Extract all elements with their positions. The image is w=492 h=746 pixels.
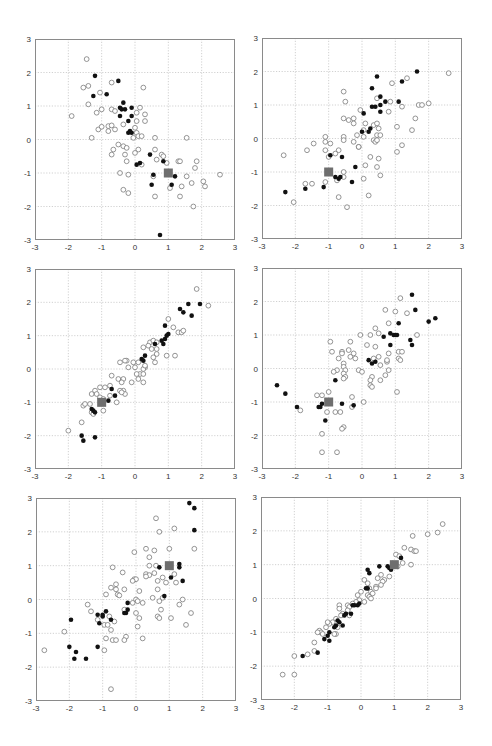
svg-text:-1: -1: [99, 704, 107, 713]
svg-text:1: 1: [253, 561, 258, 570]
svg-text:3: 3: [459, 703, 464, 712]
svg-text:0: 0: [359, 703, 364, 712]
svg-text:-2: -2: [24, 432, 32, 441]
scatter-panel-middle-right: -3-2-10123-3-2-10123: [262, 268, 462, 469]
svg-text:-1: -1: [325, 242, 333, 251]
svg-text:1: 1: [393, 242, 398, 251]
hollow-markers: [280, 522, 445, 677]
svg-text:0: 0: [27, 136, 32, 145]
svg-text:-1: -1: [251, 168, 259, 177]
svg-text:-2: -2: [291, 703, 299, 712]
svg-text:2: 2: [254, 298, 259, 307]
svg-text:0: 0: [360, 242, 365, 251]
hollow-markers: [298, 296, 419, 455]
hollow-markers: [69, 57, 222, 209]
svg-text:-1: -1: [325, 472, 333, 481]
svg-text:-1: -1: [24, 169, 32, 178]
svg-text:-2: -2: [292, 242, 300, 251]
svg-text:-2: -2: [25, 663, 33, 672]
svg-text:-3: -3: [257, 703, 265, 712]
svg-text:2: 2: [253, 527, 258, 536]
svg-text:1: 1: [166, 243, 171, 252]
svg-text:-3: -3: [251, 235, 259, 244]
svg-text:0: 0: [28, 596, 33, 605]
svg-text:3: 3: [254, 34, 259, 43]
hollow-markers: [42, 516, 197, 692]
svg-text:1: 1: [392, 703, 397, 712]
svg-text:3: 3: [233, 243, 238, 252]
svg-text:-3: -3: [31, 243, 39, 252]
svg-text:3: 3: [460, 242, 465, 251]
square-marker: [165, 561, 174, 570]
hollow-markers: [66, 287, 211, 433]
svg-text:-3: -3: [251, 465, 259, 474]
svg-text:2: 2: [254, 68, 259, 77]
svg-text:-2: -2: [65, 472, 73, 481]
square-marker: [324, 398, 333, 407]
svg-text:-2: -2: [251, 202, 259, 211]
svg-text:-3: -3: [32, 704, 40, 713]
svg-text:1: 1: [28, 562, 33, 571]
svg-text:3: 3: [253, 493, 258, 502]
square-marker: [164, 169, 173, 178]
svg-text:-2: -2: [65, 243, 73, 252]
svg-text:-3: -3: [24, 236, 32, 245]
svg-text:-1: -1: [251, 398, 259, 407]
svg-text:3: 3: [28, 494, 33, 503]
svg-text:3: 3: [254, 264, 259, 273]
svg-text:0: 0: [27, 365, 32, 374]
svg-text:1: 1: [27, 102, 32, 111]
svg-text:-2: -2: [251, 432, 259, 441]
svg-text:3: 3: [234, 704, 239, 713]
svg-text:1: 1: [167, 704, 172, 713]
svg-text:0: 0: [134, 704, 139, 713]
svg-text:-1: -1: [98, 472, 106, 481]
svg-text:2: 2: [200, 704, 205, 713]
scatter-panel-top-right: -3-2-10123-3-2-10123: [262, 38, 462, 239]
svg-text:2: 2: [426, 472, 431, 481]
svg-text:3: 3: [460, 472, 465, 481]
svg-text:2: 2: [27, 298, 32, 307]
svg-text:-1: -1: [324, 703, 332, 712]
svg-text:0: 0: [133, 472, 138, 481]
svg-text:3: 3: [233, 472, 238, 481]
square-marker: [324, 168, 333, 177]
square-marker: [97, 398, 106, 407]
svg-text:1: 1: [254, 331, 259, 340]
svg-text:-1: -1: [98, 243, 106, 252]
svg-text:-3: -3: [24, 465, 32, 474]
svg-text:0: 0: [360, 472, 365, 481]
svg-text:0: 0: [253, 595, 258, 604]
square-marker: [390, 560, 399, 569]
svg-text:-2: -2: [24, 203, 32, 212]
svg-text:0: 0: [133, 243, 138, 252]
scatter-panel-bottom-left: -3-2-10123-3-2-10123: [36, 498, 236, 701]
scatter-panel-top-left: -3-2-10123-3-2-10123: [35, 39, 235, 240]
svg-text:1: 1: [393, 472, 398, 481]
svg-text:-3: -3: [258, 472, 266, 481]
grid-lines: [262, 268, 462, 469]
svg-text:2: 2: [199, 243, 204, 252]
svg-text:2: 2: [27, 69, 32, 78]
svg-text:2: 2: [425, 703, 430, 712]
tick-labels: -3-2-10123-3-2-10123: [251, 34, 465, 251]
axes-frame: [263, 269, 462, 469]
svg-text:2: 2: [199, 472, 204, 481]
svg-text:-3: -3: [31, 472, 39, 481]
svg-text:-3: -3: [258, 242, 266, 251]
svg-text:-2: -2: [292, 472, 300, 481]
tick-labels: -3-2-10123-3-2-10123: [24, 265, 238, 481]
svg-text:3: 3: [27, 265, 32, 274]
scatter-panel-middle-left: -3-2-10123-3-2-10123: [35, 269, 235, 469]
svg-text:-1: -1: [250, 628, 258, 637]
svg-text:2: 2: [28, 528, 33, 537]
svg-text:-2: -2: [66, 704, 74, 713]
svg-text:3: 3: [27, 35, 32, 44]
tick-labels: -3-2-10123-3-2-10123: [24, 35, 238, 252]
svg-text:1: 1: [27, 332, 32, 341]
svg-text:-3: -3: [250, 696, 258, 705]
svg-text:-3: -3: [25, 697, 33, 706]
svg-text:2: 2: [426, 242, 431, 251]
scatter-panel-bottom-right: -3-2-10123-3-2-10123: [261, 497, 461, 700]
svg-text:0: 0: [254, 135, 259, 144]
